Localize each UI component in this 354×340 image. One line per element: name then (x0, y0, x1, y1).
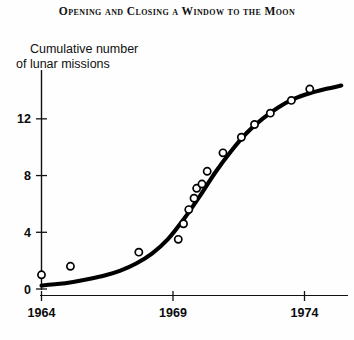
data-point-marker (67, 263, 74, 270)
x-tick-label: 1969 (159, 306, 187, 320)
y-tick-label: 0 (24, 283, 31, 297)
data-point-marker (198, 180, 205, 187)
data-point-marker (251, 121, 258, 128)
fitted-logistic-curve (42, 86, 342, 286)
x-tick-label: 1974 (291, 306, 319, 320)
data-point-marker (204, 168, 211, 175)
data-point-marker (180, 220, 187, 227)
data-point-marker (38, 271, 45, 278)
axes-group (40, 70, 348, 296)
y-tick-label: 8 (24, 169, 31, 183)
x-tick-label: 1964 (28, 306, 56, 320)
data-point-group (38, 85, 313, 278)
data-point-marker (190, 195, 197, 202)
data-point-marker (135, 249, 142, 256)
y-tick-label: 4 (24, 226, 31, 240)
y-tick-group: 04812 (17, 112, 47, 296)
data-point-marker (288, 97, 295, 104)
figure-panel: Opening and Closing a Window to the Moon… (0, 0, 354, 340)
data-point-marker (185, 206, 192, 213)
chart-canvas: 04812 196419691974 (0, 0, 354, 340)
data-point-marker (306, 85, 313, 92)
y-tick-label: 12 (17, 112, 31, 126)
data-point-marker (267, 110, 274, 117)
data-point-marker (238, 134, 245, 141)
data-point-marker (175, 236, 182, 243)
data-point-marker (219, 149, 226, 156)
